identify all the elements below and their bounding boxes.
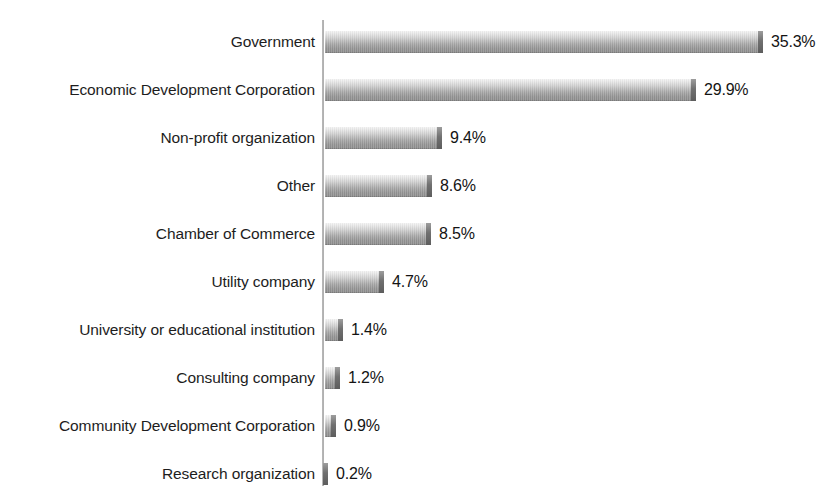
bar[interactable] (325, 31, 763, 53)
category-label: Utility company (0, 258, 315, 306)
bar[interactable] (325, 415, 336, 437)
value-label: 0.9% (344, 402, 380, 450)
bar-container (325, 463, 328, 485)
category-label: Other (0, 162, 315, 210)
value-label: 1.4% (351, 306, 387, 354)
category-label: Research organization (0, 450, 315, 498)
bar-container (325, 319, 343, 341)
bar[interactable] (325, 463, 328, 485)
bar-container (325, 271, 384, 293)
chart-row: Research organization 0.2% (0, 450, 826, 498)
chart-row: University or educational institution 1.… (0, 306, 826, 354)
category-label: Government (0, 18, 315, 66)
chart-row: Government 35.3% (0, 18, 826, 66)
value-label: 1.2% (348, 354, 384, 402)
chart-row: Economic Development Corporation 29.9% (0, 66, 826, 114)
bar-container (325, 415, 336, 437)
value-label: 0.2% (336, 450, 372, 498)
chart-row: Other 8.6% (0, 162, 826, 210)
bar-container (325, 79, 696, 101)
chart-row: Utility company 4.7% (0, 258, 826, 306)
value-label: 8.5% (439, 210, 475, 258)
bar-container (325, 31, 763, 53)
bar-container (325, 127, 442, 149)
value-label: 9.4% (450, 114, 486, 162)
category-label: Economic Development Corporation (0, 66, 315, 114)
value-label: 4.7% (392, 258, 428, 306)
chart-row: Chamber of Commerce 8.5% (0, 210, 826, 258)
category-label: Non-profit organization (0, 114, 315, 162)
chart-row: Community Development Corporation 0.9% (0, 402, 826, 450)
chart-title (0, 0, 826, 6)
category-label: Community Development Corporation (0, 402, 315, 450)
category-label: Chamber of Commerce (0, 210, 315, 258)
chart-row: Non-profit organization 9.4% (0, 114, 826, 162)
bar[interactable] (325, 127, 442, 149)
category-label: Consulting company (0, 354, 315, 402)
value-label: 29.9% (704, 66, 748, 114)
bar-chart: Government 35.3% Economic Development Co… (0, 0, 826, 498)
category-label: University or educational institution (0, 306, 315, 354)
value-label: 35.3% (771, 18, 815, 66)
bar-container (325, 175, 432, 197)
bar-container (325, 223, 431, 245)
bar[interactable] (325, 319, 343, 341)
bar-container (325, 367, 340, 389)
plot-area: Government 35.3% Economic Development Co… (0, 18, 826, 498)
chart-row: Consulting company 1.2% (0, 354, 826, 402)
bar[interactable] (325, 271, 384, 293)
bar[interactable] (325, 175, 432, 197)
bar[interactable] (325, 367, 340, 389)
bar[interactable] (325, 79, 696, 101)
value-label: 8.6% (440, 162, 476, 210)
bar[interactable] (325, 223, 431, 245)
